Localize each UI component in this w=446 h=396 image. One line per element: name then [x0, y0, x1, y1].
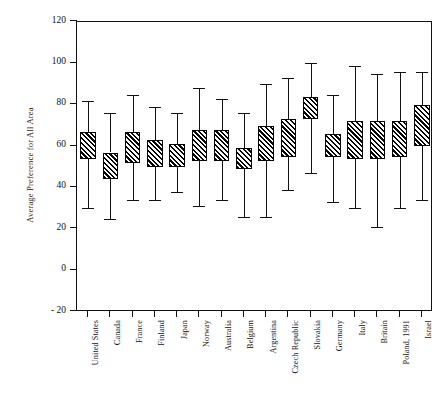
- whisker-lower: [177, 167, 178, 192]
- y-axis-tick-label: 100: [6, 56, 66, 66]
- whisker-lower: [333, 157, 334, 203]
- whisker-cap-lower: [216, 200, 228, 201]
- y-axis-tick-label: 0: [6, 263, 66, 273]
- x-axis-label: Britain: [380, 320, 389, 343]
- y-axis-title: Average Preference for All Area: [25, 65, 35, 265]
- y-axis-tick-label: 40: [6, 180, 66, 190]
- x-axis-tick: [132, 311, 133, 317]
- whisker-lower: [266, 161, 267, 217]
- box-iqr: [103, 153, 119, 180]
- y-axis-tick-label: 80: [6, 97, 66, 107]
- whisker-cap-upper: [104, 113, 116, 114]
- x-axis-tick: [332, 311, 333, 317]
- x-axis-label: France: [135, 320, 144, 343]
- box-iqr: [325, 134, 341, 157]
- x-axis-tick: [354, 311, 355, 317]
- x-axis-tick: [310, 311, 311, 317]
- y-axis-tick-label: - 20: [6, 305, 66, 315]
- box-iqr: [147, 140, 163, 167]
- whisker-upper: [177, 113, 178, 144]
- x-axis-tick: [87, 311, 88, 317]
- whisker-lower: [377, 159, 378, 227]
- whisker-upper: [311, 63, 312, 96]
- box-iqr: [347, 121, 363, 158]
- whisker-cap-lower: [349, 208, 361, 209]
- whisker-cap-upper: [260, 84, 272, 85]
- whisker-cap-upper: [149, 107, 161, 108]
- x-axis-tick: [176, 311, 177, 317]
- whisker-cap-lower: [305, 173, 317, 174]
- whisker-upper: [244, 113, 245, 148]
- box-iqr: [80, 132, 96, 159]
- x-axis-tick: [243, 311, 244, 317]
- whisker-lower: [110, 179, 111, 218]
- whisker-upper: [422, 72, 423, 105]
- x-axis-label: Poland, 1991: [402, 320, 411, 364]
- box-iqr: [192, 130, 208, 161]
- x-axis-label: Norway: [202, 320, 211, 347]
- box-iqr: [236, 148, 252, 169]
- box-iqr: [370, 121, 386, 158]
- x-axis-label: Germany: [335, 320, 344, 351]
- whisker-cap-lower: [260, 217, 272, 218]
- whisker-upper: [266, 84, 267, 125]
- whisker-cap-lower: [416, 200, 428, 201]
- x-axis-label: Italy: [358, 320, 367, 336]
- whisker-upper: [88, 101, 89, 132]
- whisker-cap-upper: [327, 95, 339, 96]
- box-iqr: [258, 126, 274, 161]
- whisker-lower: [422, 146, 423, 200]
- whisker-lower: [400, 157, 401, 209]
- x-axis-tick: [265, 311, 266, 317]
- whisker-cap-lower: [193, 206, 205, 207]
- whisker-cap-upper: [305, 63, 317, 64]
- whisker-upper: [133, 95, 134, 132]
- whisker-cap-lower: [238, 217, 250, 218]
- whisker-lower: [288, 157, 289, 190]
- whisker-cap-lower: [171, 192, 183, 193]
- whisker-upper: [355, 66, 356, 122]
- whisker-upper: [377, 74, 378, 122]
- whisker-cap-lower: [327, 202, 339, 203]
- x-axis-tick: [421, 311, 422, 317]
- box-iqr: [392, 121, 408, 156]
- whisker-cap-upper: [349, 66, 361, 67]
- x-axis-tick: [109, 311, 110, 317]
- x-axis-tick: [376, 311, 377, 317]
- whisker-lower: [222, 161, 223, 200]
- whisker-cap-lower: [104, 219, 116, 220]
- box-iqr: [303, 97, 319, 120]
- x-axis-tick: [287, 311, 288, 317]
- whisker-cap-upper: [193, 88, 205, 89]
- whisker-cap-lower: [371, 227, 383, 228]
- whisker-cap-lower: [282, 190, 294, 191]
- whisker-upper: [400, 72, 401, 122]
- whisker-upper: [199, 88, 200, 129]
- box-iqr: [125, 132, 141, 163]
- whisker-lower: [311, 119, 312, 173]
- x-axis-label: Australia: [224, 320, 233, 351]
- whisker-lower: [199, 161, 200, 207]
- y-axis-tick-label: 120: [6, 15, 66, 25]
- x-axis-tick: [154, 311, 155, 317]
- whisker-cap-upper: [238, 113, 250, 114]
- whisker-cap-upper: [371, 74, 383, 75]
- whisker-cap-upper: [171, 113, 183, 114]
- whisker-upper: [333, 95, 334, 134]
- x-axis-tick: [221, 311, 222, 317]
- y-axis-tick-label: 20: [6, 222, 66, 232]
- whisker-upper: [288, 78, 289, 119]
- whisker-lower: [155, 167, 156, 200]
- box-iqr: [169, 144, 185, 167]
- x-axis-label: Finland: [157, 320, 166, 346]
- box-plot-chart: Average Preference for All Area 12010080…: [0, 0, 446, 396]
- x-axis-label: Slovakia: [313, 320, 322, 349]
- x-axis-tick: [399, 311, 400, 317]
- x-axis-label: Canada: [113, 320, 122, 345]
- box-iqr: [414, 105, 430, 146]
- whisker-upper: [155, 107, 156, 140]
- whisker-cap-upper: [282, 78, 294, 79]
- whisker-lower: [244, 169, 245, 217]
- whisker-cap-lower: [82, 208, 94, 209]
- whisker-lower: [355, 159, 356, 209]
